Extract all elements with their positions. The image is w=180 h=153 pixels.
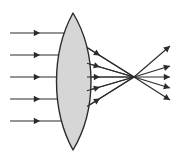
ray-2-incident xyxy=(10,52,59,58)
ray-5-diverged xyxy=(134,46,170,77)
ray-5-refracted-marker xyxy=(87,77,134,107)
ray-2-refracted-arrow-icon xyxy=(93,62,100,68)
ray-4-incident xyxy=(10,96,59,102)
ray-1-refracted-exit-line xyxy=(87,47,134,77)
ray-5-incident xyxy=(10,118,64,124)
ray-4-refracted-arrow-icon xyxy=(93,86,100,92)
lens-ray-diagram: Converging (biconvex) lens focusing para… xyxy=(0,0,180,153)
ray-4-incident-arrow-icon xyxy=(34,96,40,102)
ray-1-diverged-arrow-icon xyxy=(163,94,170,100)
ray-4-diverged-arrow-icon xyxy=(163,65,170,71)
ray-3-refracted-arrow-icon xyxy=(94,74,100,80)
ray-1-incident-arrow-icon xyxy=(34,30,40,36)
ray-3-incident xyxy=(10,74,57,80)
ray-5-incident-arrow-icon xyxy=(34,118,40,124)
ray-1-refracted-marker xyxy=(87,47,134,77)
ray-3-diverged-arrow-icon xyxy=(164,74,170,80)
rays-overlay-layer xyxy=(87,46,170,107)
ray-5-refracted-exit-line xyxy=(87,77,134,107)
ray-2-incident-arrow-icon xyxy=(34,52,40,58)
ray-5-diverged-line xyxy=(134,46,170,77)
ray-3-diverged xyxy=(134,74,170,80)
ray-3-incident-arrow-icon xyxy=(34,74,40,80)
ray-1-incident xyxy=(10,30,64,36)
optics-diagram-canvas xyxy=(0,0,180,153)
ray-2-diverged-arrow-icon xyxy=(163,83,170,89)
